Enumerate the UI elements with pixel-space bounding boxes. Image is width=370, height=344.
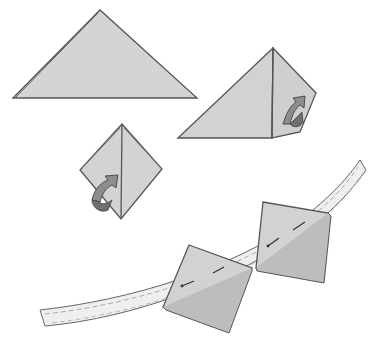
folding-diagram	[0, 0, 370, 344]
pinned-square-2	[256, 202, 331, 283]
illustration-canvas: Folding triangle pockets and attaching t…	[0, 0, 370, 344]
step-2-folded-triangle	[178, 48, 316, 138]
step-1-triangle	[13, 10, 197, 98]
step-3-square-pocket	[80, 124, 162, 219]
